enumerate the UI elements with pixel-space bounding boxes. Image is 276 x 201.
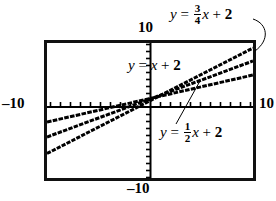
eq-variable: x	[202, 6, 209, 22]
graph-figure: y = 34x + 2 y = x + 2 y = 12x + 2 10 –10…	[0, 0, 276, 201]
eq-lhs: y	[160, 124, 167, 140]
eq-equals: =	[170, 124, 178, 140]
fraction-numerator: 1	[184, 121, 192, 132]
eq-plus: +	[161, 57, 169, 73]
eq-variable: x	[192, 124, 199, 140]
equation-label-one-half: y = 12x + 2	[160, 122, 222, 145]
eq-constant: 2	[215, 124, 223, 140]
y-min-label: –10	[127, 181, 150, 196]
fraction-three-fourths: 34	[194, 3, 202, 26]
equation-label-slope-one: y = x + 2	[128, 58, 181, 73]
eq-lhs: y	[128, 57, 135, 73]
eq-plus: +	[203, 124, 211, 140]
eq-variable: x	[151, 57, 158, 73]
y-max-label: 10	[138, 20, 153, 35]
equation-label-three-quarters: y = 34x + 2	[170, 4, 232, 27]
eq-constant: 2	[225, 6, 233, 22]
x-min-label: –10	[2, 96, 25, 111]
eq-lhs: y	[170, 6, 177, 22]
fraction-denominator: 2	[184, 132, 192, 144]
eq-equals: =	[138, 57, 146, 73]
fraction-numerator: 3	[194, 3, 202, 14]
eq-equals: =	[180, 6, 188, 22]
fraction-one-half: 12	[184, 121, 192, 144]
x-max-label: 10	[259, 96, 274, 111]
eq-constant: 2	[173, 57, 181, 73]
eq-plus: +	[213, 6, 221, 22]
fraction-denominator: 4	[194, 14, 202, 26]
